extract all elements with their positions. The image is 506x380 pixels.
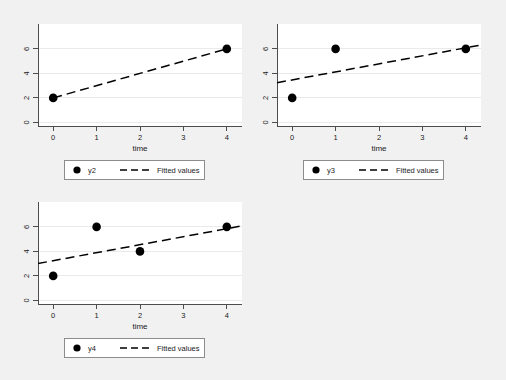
data-point	[223, 45, 232, 54]
legend-label-series: y2	[88, 166, 96, 175]
legend-marker-icon	[312, 166, 319, 173]
svg-text:0: 0	[51, 311, 55, 320]
data-point	[331, 45, 340, 54]
x-axis-tick-labels: 0 1 2 3 4	[51, 133, 229, 142]
svg-text:6: 6	[262, 47, 271, 51]
legend-label-series: y3	[327, 166, 335, 175]
data-point	[462, 45, 471, 54]
legend: y4 Fitted values	[65, 339, 205, 358]
legend: y2 Fitted values	[65, 161, 205, 180]
svg-text:4: 4	[262, 71, 271, 75]
x-axis-title: time	[371, 144, 387, 153]
svg-text:4: 4	[23, 249, 32, 253]
chart-panel-y2: 0 2 4 6 0 1 2 3 4 time	[14, 14, 246, 186]
y-axis-ticks	[33, 227, 38, 301]
svg-text:2: 2	[262, 96, 271, 100]
x-axis-title: time	[132, 144, 148, 153]
svg-text:4: 4	[464, 133, 468, 142]
svg-text:3: 3	[181, 311, 185, 320]
chart-panel-y4: 0 2 4 6 0 1 2 3 4 time	[14, 192, 246, 367]
svg-text:3: 3	[181, 133, 185, 142]
y-axis-tick-labels: 0 2 4 6	[23, 225, 32, 303]
svg-text:2: 2	[138, 311, 142, 320]
data-point	[288, 94, 297, 103]
svg-text:0: 0	[262, 120, 271, 124]
y-axis-tick-labels: 0 2 4 6	[262, 47, 271, 125]
y-axis-ticks	[33, 49, 38, 123]
svg-text:4: 4	[225, 311, 229, 320]
svg-text:2: 2	[377, 133, 381, 142]
svg-text:6: 6	[23, 225, 32, 229]
plot-area-background	[38, 24, 242, 126]
x-axis-tick-labels: 0 1 2 3 4	[290, 133, 468, 142]
legend-label-series: y4	[88, 344, 96, 353]
svg-text:4: 4	[225, 133, 229, 142]
svg-text:0: 0	[290, 133, 294, 142]
legend-label-fitted: Fitted values	[157, 166, 200, 175]
y-axis-ticks	[272, 49, 277, 123]
figure-canvas: 0 2 4 6 0 1 2 3 4 time	[0, 0, 506, 380]
legend-marker-icon	[73, 344, 80, 351]
x-axis-tick-labels: 0 1 2 3 4	[51, 311, 229, 320]
data-point	[49, 272, 58, 281]
chart-svg-y4: 0 2 4 6 0 1 2 3 4 time	[14, 192, 246, 367]
svg-text:1: 1	[95, 133, 99, 142]
svg-text:2: 2	[23, 96, 32, 100]
data-point	[136, 247, 145, 256]
svg-text:2: 2	[23, 274, 32, 278]
svg-text:2: 2	[138, 133, 142, 142]
svg-text:0: 0	[23, 120, 32, 124]
svg-text:4: 4	[23, 71, 32, 75]
svg-text:1: 1	[334, 133, 338, 142]
data-point	[49, 94, 58, 103]
svg-text:0: 0	[23, 298, 32, 302]
svg-text:0: 0	[51, 133, 55, 142]
data-point	[92, 223, 101, 232]
data-point	[223, 223, 232, 232]
chart-panel-y3: 0 2 4 6 0 1 2 3 4 time	[253, 14, 485, 186]
chart-svg-y2: 0 2 4 6 0 1 2 3 4 time	[14, 14, 246, 186]
legend-label-fitted: Fitted values	[157, 344, 200, 353]
legend-marker-icon	[73, 166, 80, 173]
chart-svg-y3: 0 2 4 6 0 1 2 3 4 time	[253, 14, 485, 186]
y-axis-tick-labels: 0 2 4 6	[23, 47, 32, 125]
svg-text:1: 1	[95, 311, 99, 320]
plot-area-background	[277, 24, 481, 126]
x-axis-title: time	[132, 322, 148, 331]
legend-label-fitted: Fitted values	[396, 166, 439, 175]
legend: y3 Fitted values	[304, 161, 444, 180]
svg-text:6: 6	[23, 47, 32, 51]
svg-text:3: 3	[420, 133, 424, 142]
